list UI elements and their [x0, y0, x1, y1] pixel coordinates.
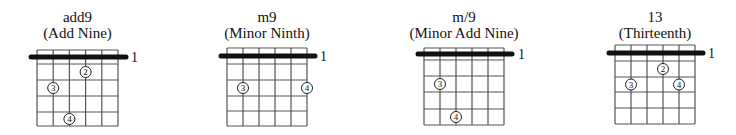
- fretboard-grid: 1234: [7, 0, 147, 135]
- fret-number-label: 1: [131, 50, 138, 65]
- finger-number: 4: [454, 112, 459, 122]
- finger-number: 3: [438, 79, 443, 89]
- fret-number-label: 1: [320, 49, 327, 64]
- finger-number: 2: [83, 67, 88, 77]
- finger-dot: 2: [658, 64, 669, 75]
- fretboard-grid: 1234: [585, 0, 724, 135]
- finger-number: 3: [629, 80, 634, 90]
- chord-diagram: 13(Thirteenth)1234: [585, 0, 724, 135]
- finger-dot: 4: [451, 112, 462, 123]
- finger-number: 3: [51, 83, 56, 93]
- finger-dot: 3: [435, 79, 446, 90]
- chord-diagram: add9(Add Nine)1234: [7, 0, 147, 135]
- finger-number: 2: [661, 64, 666, 74]
- finger-dot: 3: [48, 83, 59, 94]
- finger-dot: 4: [302, 83, 313, 94]
- fret-number-label: 1: [518, 47, 525, 62]
- finger-number: 4: [67, 114, 72, 124]
- finger-number: 4: [677, 80, 682, 90]
- fretboard-grid: 134: [394, 0, 534, 135]
- finger-dot: 3: [238, 83, 249, 94]
- finger-dot: 4: [64, 114, 75, 125]
- chord-diagram: m9(Minor Ninth)134: [197, 0, 336, 135]
- finger-dot: 4: [674, 79, 685, 90]
- finger-dot: 3: [626, 79, 637, 90]
- finger-number: 4: [305, 83, 310, 93]
- finger-dot: 2: [80, 67, 91, 78]
- chord-diagram: m/9(Minor Add Nine)134: [394, 0, 534, 135]
- fretboard-grid: 134: [197, 0, 336, 135]
- finger-number: 3: [241, 83, 246, 93]
- fret-number-label: 1: [708, 46, 715, 61]
